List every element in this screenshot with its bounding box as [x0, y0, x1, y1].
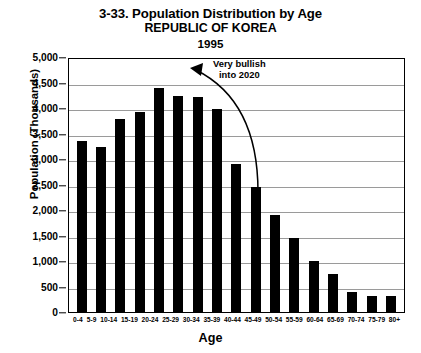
bar: [212, 109, 222, 312]
bar: [289, 238, 299, 312]
x-axis-tick-label: 30-34: [183, 315, 200, 331]
y-axis-tick-mark: [59, 57, 66, 58]
y-axis-tick-mark: [59, 159, 66, 160]
x-axis-tick-label: 50-54: [265, 315, 282, 331]
plot-area: [68, 58, 405, 313]
y-axis-tick-label: 0: [52, 308, 58, 318]
annotation-line-2: into 2020: [213, 69, 266, 80]
x-axis-label: Age: [0, 331, 421, 345]
y-axis-tick-mark: [59, 185, 66, 186]
bar: [231, 164, 241, 312]
bar: [309, 261, 319, 312]
y-axis-tick-mark: [59, 210, 66, 211]
y-axis-tick-mark: [59, 83, 66, 84]
bar: [135, 112, 145, 312]
bar: [386, 296, 396, 312]
y-axis-tick-mark: [59, 236, 66, 237]
x-axis-tick-label: 45-49: [245, 315, 262, 331]
bar: [367, 296, 377, 312]
bar: [328, 274, 338, 312]
bar: [270, 215, 280, 312]
x-axis-tick-label: 20-24: [142, 315, 159, 331]
y-axis-tick-mark: [59, 134, 66, 135]
bar: [193, 97, 203, 312]
bar-series: [69, 59, 404, 312]
bar: [115, 119, 125, 312]
bar: [154, 88, 164, 312]
bar: [96, 147, 106, 312]
x-axis-tick-label: 65-69: [327, 315, 344, 331]
x-axis-tick-label: 15-19: [121, 315, 138, 331]
x-axis-tick-label: 75-79: [368, 315, 385, 331]
chart-title-block: 3-33. Population Distribution by Age REP…: [0, 6, 421, 51]
chart-subtitle-year: 1995: [0, 36, 421, 51]
bar: [347, 292, 357, 312]
y-axis-tick-mark: [59, 312, 66, 313]
y-axis-tick-mark: [59, 108, 66, 109]
y-axis-tick-label: 1,000: [33, 257, 59, 267]
chart-figure: 3-33. Population Distribution by Age REP…: [0, 0, 421, 353]
x-axis-tick-label: 40-44: [224, 315, 241, 331]
x-axis-tick-label: 80+: [389, 315, 400, 331]
x-axis-tick-label: 35-39: [203, 315, 220, 331]
chart-subtitle-country: REPUBLIC OF KOREA: [0, 21, 421, 36]
annotation-line-1: Very bullish: [213, 58, 266, 69]
x-axis-tick-label: 55-59: [286, 315, 303, 331]
x-axis-tick-label: 60-64: [306, 315, 323, 331]
y-axis-label: Population (Thousands): [28, 14, 40, 254]
y-axis-tick-mark: [59, 261, 66, 262]
bar: [173, 96, 183, 312]
x-axis: 0-45-910-1415-1920-2425-2930-3435-3940-4…: [68, 315, 405, 331]
x-axis-tick-label: 70-74: [348, 315, 365, 331]
y-axis-tick-mark: [59, 287, 66, 288]
chart-title: 3-33. Population Distribution by Age: [0, 6, 421, 21]
x-axis-tick-label: 25-29: [162, 315, 179, 331]
bar: [77, 141, 87, 312]
annotation-text: Very bullish into 2020: [213, 58, 266, 80]
x-axis-tick-label: 10-14: [100, 315, 117, 331]
bar: [251, 187, 261, 312]
y-axis-tick-label: 500: [41, 283, 58, 293]
x-axis-tick-label: 5-9: [87, 315, 97, 331]
x-axis-tick-label: 0-4: [73, 315, 83, 331]
